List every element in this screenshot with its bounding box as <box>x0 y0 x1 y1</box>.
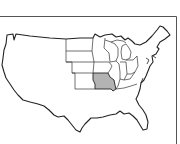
map-frame <box>0 0 180 144</box>
state-missouri <box>93 73 116 91</box>
us-outline <box>2 26 170 132</box>
us-midwest-map <box>0 0 180 144</box>
